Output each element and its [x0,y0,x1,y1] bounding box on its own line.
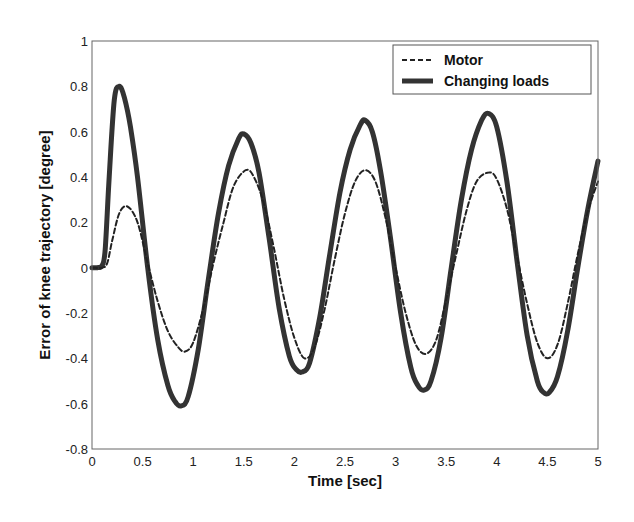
x-tick-label: 5 [594,454,601,469]
x-tick-label: 3 [392,454,399,469]
legend-label-motor: Motor [444,52,483,68]
y-tick-label: -0.2 [66,306,88,321]
y-tick-label: 0.8 [70,79,88,94]
x-tick-label: 4.5 [538,454,556,469]
x-tick-label: 0.5 [134,454,152,469]
y-tick-label: -0.4 [66,351,88,366]
y-axis-label: Error of knee trajectory [degree] [36,130,53,359]
y-tick-label: 1 [81,34,88,49]
y-tick-label: 0.4 [70,170,88,185]
y-tick-label: -0.8 [66,442,88,457]
x-tick-label: 3.5 [437,454,455,469]
legend-label-changing-loads: Changing loads [444,73,549,89]
legend: Motor Changing loads [393,45,591,94]
y-tick-label: 0.2 [70,215,88,230]
x-tick-label: 1.5 [235,454,253,469]
y-tick-label: -0.6 [66,397,88,412]
x-tick-label: 2.5 [336,454,354,469]
y-tick-label: 0 [81,261,88,276]
x-axis-label: Time [sec] [308,472,382,489]
x-tick-label: 1 [190,454,197,469]
line-chart: 00.511.522.533.544.55-0.8-0.6-0.4-0.200.… [0,0,634,522]
x-tick-label: 2 [291,454,298,469]
x-tick-label: 4 [493,454,500,469]
x-tick-label: 0 [88,454,95,469]
y-tick-label: 0.6 [70,125,88,140]
